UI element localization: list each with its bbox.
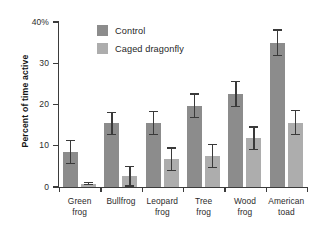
x-tick-mark (100, 188, 101, 192)
bar-wrapper (63, 22, 78, 187)
category-labels: GreenfrogBullfrogLeopardfrogTreefrogWood… (59, 196, 307, 217)
error-bar (111, 112, 112, 135)
bar-wrapper (228, 22, 243, 187)
category-label-line: frog (224, 207, 265, 218)
error-bar-cap-lower (125, 185, 134, 186)
error-bar-cap-upper (208, 144, 217, 145)
category-label: Leopardfrog (142, 196, 183, 217)
category-label: Treefrog (183, 196, 224, 217)
bar-group (224, 22, 265, 187)
error-bar (295, 110, 296, 135)
error-bar (235, 81, 236, 107)
bar-wrapper (187, 22, 202, 187)
error-bar (277, 29, 278, 55)
chart-legend: ControlCaged dragonfly (97, 25, 184, 54)
error-bar-cap-lower (66, 163, 75, 164)
error-bar-cap-upper (190, 93, 199, 94)
legend-label: Control (115, 26, 145, 36)
error-bar-cap-upper (84, 182, 93, 183)
error-bar (194, 93, 195, 118)
x-tick-mark (224, 188, 225, 192)
error-bar-cap-lower (231, 106, 240, 107)
bar-group (266, 22, 307, 187)
error-bar-cap-lower (84, 184, 93, 185)
category-label-line: Wood (224, 196, 265, 207)
category-label-line: American (266, 196, 307, 207)
error-bar-cap-lower (291, 134, 300, 135)
category-label-line: toad (266, 207, 307, 218)
error-bar-cap-upper (291, 110, 300, 111)
y-tick-mark (53, 186, 58, 187)
y-axis-title: Percent of time active (20, 31, 30, 171)
bar-wrapper (81, 22, 96, 187)
y-tick-mark (53, 145, 58, 146)
y-tick-mark (53, 21, 58, 22)
x-tick-mark (266, 188, 267, 192)
legend-item: Caged dragonfly (97, 43, 184, 54)
bar-wrapper (205, 22, 220, 187)
error-bar-cap-upper (149, 111, 158, 112)
bar-group (183, 22, 224, 187)
x-axis-ticks (59, 188, 307, 193)
y-tick-mark (53, 63, 58, 64)
category-label-line: frog (59, 207, 100, 218)
bar (228, 94, 243, 187)
error-bar-cap-upper (249, 126, 258, 127)
legend-swatch (97, 25, 108, 36)
error-bar-cap-lower (208, 167, 217, 168)
bar-wrapper (288, 22, 303, 187)
error-bar-cap-upper (167, 147, 176, 148)
category-label-line: frog (142, 207, 183, 218)
bar (270, 43, 285, 187)
error-bar (212, 144, 213, 168)
error-bar-cap-lower (190, 117, 199, 118)
error-bar-cap-lower (273, 55, 282, 56)
error-bar (153, 111, 154, 135)
error-bar-cap-upper (231, 81, 240, 82)
category-label-line: Tree (183, 196, 224, 207)
error-bar-cap-upper (125, 166, 134, 167)
category-label-line: Bullfrog (100, 196, 141, 207)
error-bar (70, 140, 71, 164)
x-tick-mark (307, 188, 308, 192)
category-label: Greenfrog (59, 196, 100, 217)
category-label: Americantoad (266, 196, 307, 217)
legend-item: Control (97, 25, 184, 36)
x-tick-mark (183, 188, 184, 192)
error-bar (129, 166, 130, 187)
error-bar (171, 147, 172, 171)
x-tick-mark (142, 188, 143, 192)
legend-label: Caged dragonfly (115, 44, 184, 54)
legend-swatch (97, 43, 108, 54)
category-label-line: frog (183, 207, 224, 218)
bar-wrapper (270, 22, 285, 187)
y-tick-label: 40% (3, 17, 49, 27)
category-label-line: Green (59, 196, 100, 207)
error-bar (253, 126, 254, 150)
category-label: Woodfrog (224, 196, 265, 217)
y-tick-mark (53, 104, 58, 105)
x-tick-mark (59, 188, 60, 192)
category-label-line: Leopard (142, 196, 183, 207)
error-bar-cap-upper (66, 140, 75, 141)
error-bar-cap-lower (167, 170, 176, 171)
bar-wrapper (246, 22, 261, 187)
error-bar-cap-lower (149, 134, 158, 135)
y-tick-label: 0 (3, 182, 49, 192)
bar-group (59, 22, 100, 187)
category-label: Bullfrog (100, 196, 141, 217)
bar-chart: 010203040% Percent of time active Greenf… (0, 0, 317, 235)
error-bar-cap-upper (273, 29, 282, 30)
error-bar-cap-upper (107, 112, 116, 113)
error-bar-cap-lower (107, 134, 116, 135)
error-bar-cap-lower (249, 149, 258, 150)
